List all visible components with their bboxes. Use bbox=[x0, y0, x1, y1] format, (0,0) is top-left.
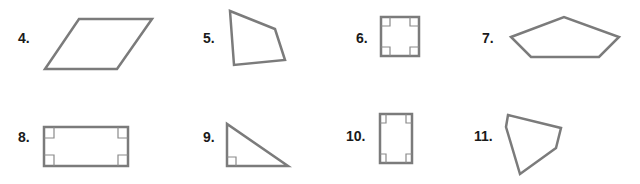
shape-8-rectangle bbox=[44, 127, 128, 166]
shape-11-pentagon bbox=[506, 115, 561, 174]
shape-7-pentagon bbox=[511, 17, 619, 57]
right-angle-mark bbox=[227, 157, 236, 166]
right-angle-marks bbox=[44, 127, 128, 166]
right-angle-marks bbox=[381, 17, 419, 56]
shape-10-rectangle bbox=[380, 114, 412, 163]
shapes-canvas bbox=[0, 0, 640, 184]
shape-9-right-triangle bbox=[227, 124, 288, 166]
shape-6-square bbox=[381, 17, 419, 56]
shape-5-quadrilateral bbox=[230, 11, 285, 65]
shape-4-parallelogram bbox=[45, 19, 152, 69]
right-angle-marks bbox=[380, 114, 412, 163]
